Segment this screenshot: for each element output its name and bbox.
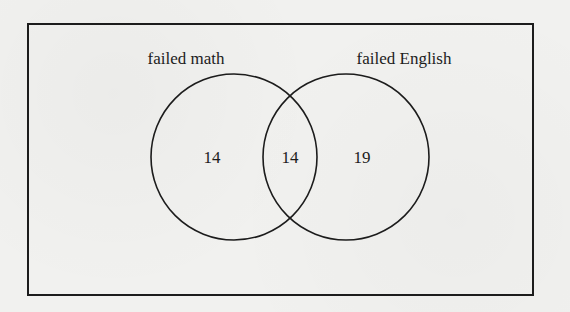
region-count-intersection: 14 bbox=[282, 148, 300, 167]
set-label-failed-english: failed English bbox=[357, 49, 452, 68]
universe-rectangle bbox=[28, 24, 533, 295]
venn-diagram: failed math failed English 14 14 19 bbox=[0, 0, 570, 312]
region-count-english-only: 19 bbox=[354, 148, 371, 167]
set-label-failed-math: failed math bbox=[148, 49, 225, 68]
region-count-math-only: 14 bbox=[204, 148, 222, 167]
